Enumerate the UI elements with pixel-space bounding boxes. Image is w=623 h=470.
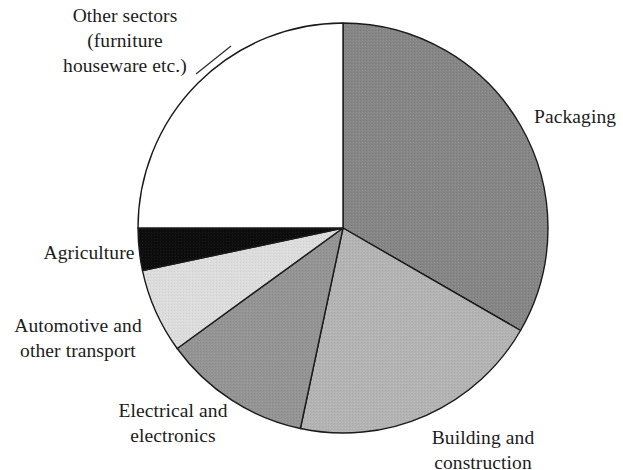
pie-label-packaging: Packaging: [534, 104, 623, 129]
pie-label-electrical-and-electronics: Electrical andelectronics: [74, 398, 272, 448]
pie-label-packaging-line1: Packaging: [534, 106, 616, 127]
pie-label-electrical-line2: electronics: [130, 425, 216, 446]
pie-label-building-line1: Building and: [432, 427, 535, 448]
pie-chart-figure: Other sectors(furniturehouseware etc.) P…: [0, 0, 623, 470]
pie-label-other-sectors-line1: Other sectors: [73, 5, 178, 26]
pie-label-other-sectors-line3: houseware etc.): [63, 55, 187, 76]
pie-label-automotive-line2: other transport: [20, 340, 136, 361]
pie-label-electrical-line1: Electrical and: [118, 400, 227, 421]
pie-label-other-sectors: Other sectors(furniturehouseware etc.): [18, 3, 232, 78]
pie-slice-group: [138, 23, 548, 433]
pie-label-automotive-and-other-transport: Automotive andother transport: [2, 313, 154, 363]
pie-label-other-sectors-line2: (furniture: [87, 30, 163, 51]
pie-label-agriculture: Agriculture: [26, 240, 152, 265]
pie-label-agriculture-line1: Agriculture: [44, 242, 135, 263]
pie-label-building-and-construction: Building andconstruction: [398, 425, 568, 470]
pie-label-building-line2: construction: [434, 452, 532, 470]
pie-label-automotive-line1: Automotive and: [14, 315, 142, 336]
